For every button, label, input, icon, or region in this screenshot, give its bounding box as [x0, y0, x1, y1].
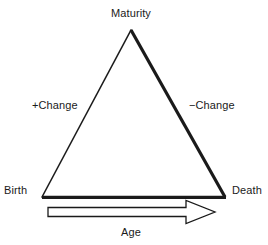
- triangle-right-edge: [131, 30, 225, 197]
- diagram-canvas: Maturity +Change −Change Birth Death Age: [0, 0, 268, 245]
- life-cycle-triangle-graphic: [0, 0, 268, 245]
- age-arrow: [48, 201, 215, 224]
- triangle-left-edge: [42, 30, 131, 197]
- label-age: Age: [0, 226, 262, 238]
- label-positive-change: +Change: [32, 99, 78, 111]
- label-negative-change: −Change: [189, 99, 235, 111]
- label-birth: Birth: [4, 184, 27, 196]
- label-death: Death: [232, 184, 262, 196]
- label-maturity: Maturity: [0, 7, 262, 19]
